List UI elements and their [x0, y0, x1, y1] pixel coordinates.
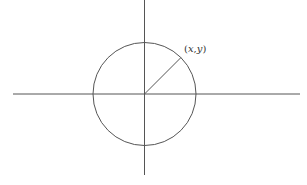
unit-circle-diagram [0, 0, 307, 185]
point-label: (x,y) [184, 44, 206, 54]
radius-line [145, 58, 182, 95]
point-label-text: (x,y) [184, 43, 206, 54]
diagram-canvas: (x,y) [0, 0, 307, 185]
